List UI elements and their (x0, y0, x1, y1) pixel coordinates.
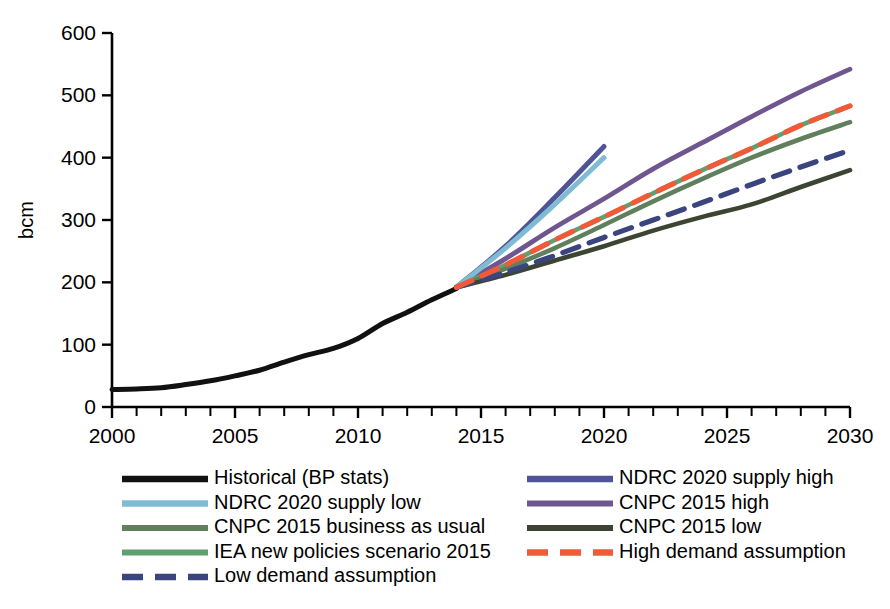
legend-label: CNPC 2015 business as usual (214, 515, 485, 537)
y-tick-label: 500 (61, 83, 96, 106)
legend-item: Historical (BP stats) (122, 466, 389, 488)
x-tick-label: 2030 (827, 424, 874, 447)
legend-label: IEA new policies scenario 2015 (214, 540, 491, 562)
legend-item: CNPC 2015 low (527, 515, 762, 537)
series-line-cnpc-2015-high (456, 69, 850, 287)
series-line-high-demand-assumption (456, 106, 850, 287)
legend-item: NDRC 2020 supply high (527, 466, 834, 488)
legend-item: CNPC 2015 business as usual (122, 515, 485, 537)
y-tick-label: 600 (61, 21, 96, 44)
x-tick-label: 2025 (704, 424, 751, 447)
y-tick-label: 100 (61, 333, 96, 356)
legend-label: Low demand assumption (214, 564, 436, 586)
series-line-historical-bp-stats (112, 289, 456, 390)
legend-item: CNPC 2015 high (527, 491, 769, 513)
legend-label: High demand assumption (619, 540, 846, 562)
gas-demand-projection-chart: 0100200300400500600200020052010201520202… (0, 0, 890, 609)
series-lines (112, 69, 850, 389)
chart-legend: Historical (BP stats)NDRC 2020 supply lo… (122, 466, 846, 586)
y-tick-label: 200 (61, 270, 96, 293)
chart-figure: 0100200300400500600200020052010201520202… (0, 0, 890, 609)
y-tick-label: 400 (61, 146, 96, 169)
x-tick-label: 2020 (581, 424, 628, 447)
x-tick-label: 2000 (89, 424, 136, 447)
legend-label: CNPC 2015 high (619, 491, 769, 513)
legend-item: Low demand assumption (122, 564, 436, 586)
x-tick-label: 2010 (335, 424, 382, 447)
legend-item: High demand assumption (527, 540, 846, 562)
y-axis-title: bcm (15, 201, 37, 239)
x-tick-label: 2015 (458, 424, 505, 447)
y-axis-title-text: bcm (15, 201, 37, 239)
x-tick-label: 2005 (212, 424, 259, 447)
legend-label: NDRC 2020 supply high (619, 466, 834, 488)
legend-label: Historical (BP stats) (214, 466, 389, 488)
legend-label: NDRC 2020 supply low (214, 491, 421, 513)
legend-item: NDRC 2020 supply low (122, 491, 421, 513)
legend-item: IEA new policies scenario 2015 (122, 540, 491, 562)
y-tick-label: 0 (84, 395, 96, 418)
y-tick-label: 300 (61, 208, 96, 231)
legend-label: CNPC 2015 low (619, 515, 762, 537)
